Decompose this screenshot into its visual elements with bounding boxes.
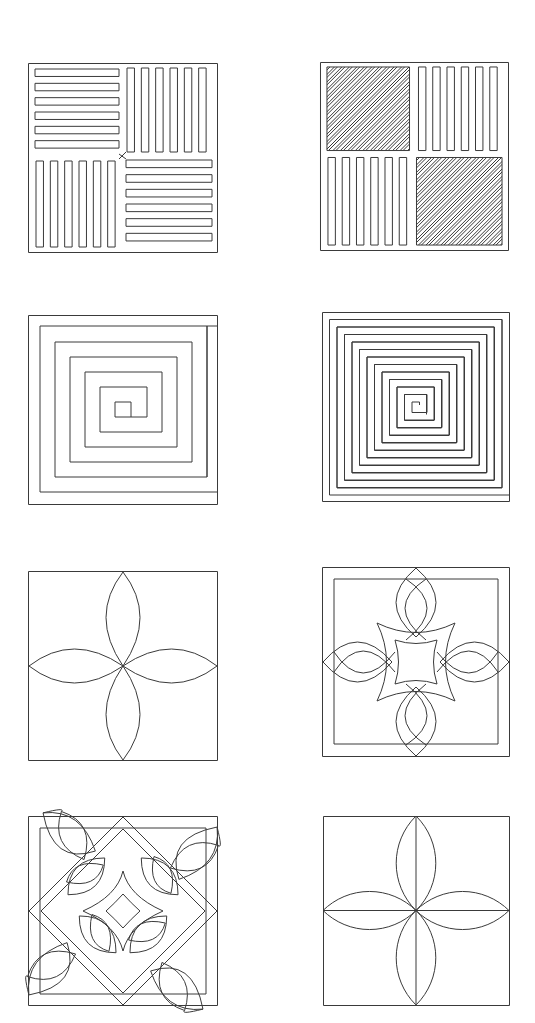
pattern-double-petal-star xyxy=(322,567,510,757)
pattern-circles-grid xyxy=(323,816,510,1006)
circles-grid-drawing xyxy=(323,816,510,1006)
basketweave-channels-drawing xyxy=(28,63,218,253)
pattern-diamond-loops xyxy=(28,816,218,1006)
diamond-loops-drawing xyxy=(28,816,218,1006)
pattern-four-petal xyxy=(28,571,218,761)
pattern-spiral-wide xyxy=(28,315,218,505)
spiral-wide-drawing xyxy=(28,315,218,505)
four-petal-drawing xyxy=(28,571,218,761)
pattern-basketweave-hatched xyxy=(320,62,509,251)
double-petal-star-drawing xyxy=(322,567,510,757)
pattern-spiral-dense xyxy=(322,312,510,502)
pattern-basketweave-channels xyxy=(28,63,218,253)
spiral-dense-drawing xyxy=(322,312,510,502)
basketweave-hatched-drawing xyxy=(320,62,509,251)
